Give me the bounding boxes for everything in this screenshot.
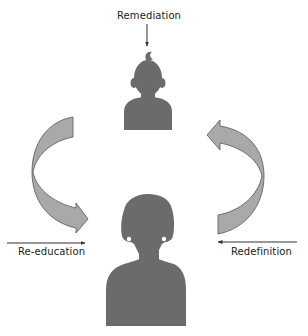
redefinition-label: Redefinition: [231, 246, 292, 257]
adult-silhouette-icon: [106, 194, 186, 326]
left-curved-arrow-icon: [32, 117, 88, 233]
remediation-label: Remediation: [117, 10, 181, 21]
cycle-diagram: [0, 0, 308, 336]
re-education-label: Re-education: [18, 246, 85, 257]
right-curved-arrow-icon: [207, 120, 264, 234]
child-silhouette-icon: [124, 52, 172, 130]
